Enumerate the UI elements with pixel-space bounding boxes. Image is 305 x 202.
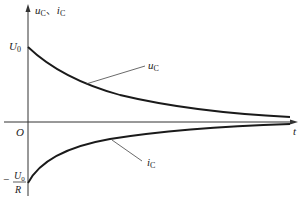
y-axis-label: uC、iC: [35, 4, 65, 18]
ic-label: iC: [147, 156, 155, 170]
t-axis-label: t: [293, 125, 297, 137]
u0-label: U0: [9, 40, 21, 54]
uc-leader-line: [86, 66, 145, 84]
origin-label: O: [16, 126, 24, 138]
uc-label: uC: [148, 59, 159, 73]
uc-curve: [28, 47, 290, 117]
svg-text:−: −: [3, 173, 9, 185]
capacitor-discharge-diagram: uC、iC U0 O t − U0 R uC iC: [0, 0, 305, 202]
ic-leader-line: [112, 140, 142, 161]
y-axis-arrow-icon: [26, 4, 31, 12]
ic-curve: [28, 124, 290, 183]
svg-text:U0: U0: [14, 170, 25, 183]
svg-text:R: R: [14, 184, 21, 195]
t-axis-arrow-icon: [290, 120, 298, 125]
neg-u0-over-r-label: − U0 R: [3, 170, 26, 195]
